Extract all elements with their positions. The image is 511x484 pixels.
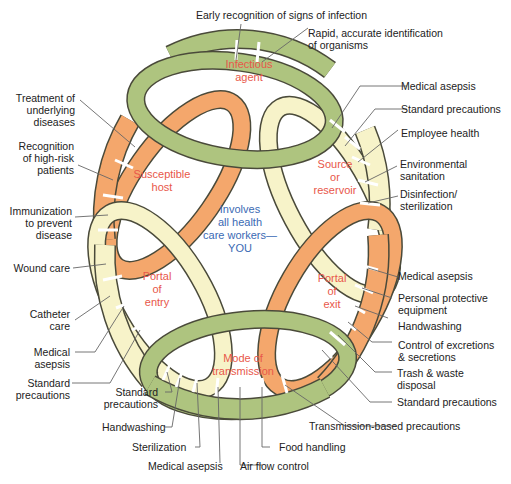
label-disinfection-sterilization: Disinfection/ sterilization	[400, 188, 457, 212]
mode-transmission-label: Mode of transmission	[198, 352, 288, 378]
center-message: Involves all health care workers— YOU	[195, 203, 285, 255]
label-early-recognition: Early recognition of signs of infection	[196, 9, 367, 21]
label-b-medical-asepsis: Medical asepsis	[148, 460, 223, 472]
label-control-excretions: Control of excretions & secretions	[398, 339, 494, 363]
label-r-medical-asepsis: Medical asepsis	[401, 80, 476, 92]
label-wound-care: Wound care	[0, 262, 70, 274]
label-r-standard-precautions: Standard precautions	[401, 103, 501, 115]
label-r-handwashing: Handwashing	[398, 320, 462, 332]
label-treatment-underlying: Treatment of underlying diseases	[0, 92, 75, 128]
label-trash-waste: Trash & waste disposal	[397, 367, 464, 391]
label-b-handwashing: Handwashing	[102, 421, 166, 433]
label-r-medical-asepsis-2: Medical asepsis	[398, 270, 473, 282]
label-l-medical-asepsis: Medical asepsis	[0, 346, 70, 370]
label-food-handling: Food handling	[279, 441, 346, 453]
portal-exit-label: Portal of exit	[297, 272, 367, 311]
label-catheter-care: Catheter care	[0, 308, 70, 332]
label-transmission-based: Transmission-based precautions	[309, 420, 460, 432]
source-reservoir-label: Source or reservoir	[300, 158, 370, 197]
label-air-flow-control: Air flow control	[240, 460, 309, 472]
label-recognition-high-risk: Recognition of high-risk patients	[0, 140, 74, 176]
portal-entry-label: Portal of entry	[122, 270, 192, 309]
infectious-agent-label: Infectious agent	[214, 58, 284, 84]
label-r-standard-precautions-2: Standard precautions	[397, 396, 497, 408]
label-rapid-identification: Rapid, accurate identification of organi…	[308, 27, 443, 51]
susceptible-host-label: Susceptible host	[122, 168, 202, 194]
label-l-standard-precautions: Standard precautions	[0, 377, 70, 401]
label-sterilization: Sterilization	[132, 441, 186, 453]
label-immunization: Immunization to prevent disease	[0, 205, 72, 241]
label-employee-health: Employee health	[401, 127, 479, 139]
label-b-standard-precautions: Standard precautions	[100, 386, 158, 410]
label-environmental-sanitation: Environmental sanitation	[400, 158, 467, 182]
label-personal-protective-equipment: Personal protective equipment	[398, 292, 488, 316]
